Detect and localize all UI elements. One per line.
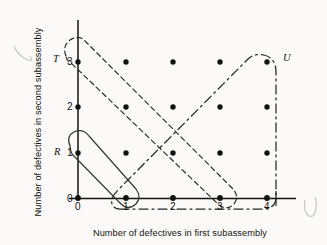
x-tick-4: 4 — [264, 201, 270, 212]
figure-background — [0, 0, 327, 245]
data-point — [170, 59, 175, 64]
data-point — [75, 59, 80, 64]
region-label-T: T — [53, 53, 59, 64]
y-tick-1: 1 — [67, 147, 73, 158]
data-point — [217, 59, 222, 64]
data-point — [264, 104, 269, 109]
x-tick-0: 0 — [75, 201, 81, 212]
y-tick-0: 0 — [67, 193, 73, 204]
region-label-R: R — [54, 146, 60, 157]
y-axis-title: Number of defectives in second subassemb… — [33, 22, 43, 222]
data-point — [75, 104, 80, 109]
data-point — [75, 150, 80, 155]
data-point — [123, 59, 128, 64]
x-tick-3: 3 — [217, 201, 223, 212]
data-point — [170, 150, 175, 155]
data-point — [217, 104, 222, 109]
y-tick-3: 3 — [67, 56, 73, 67]
region-label-U: U — [283, 52, 291, 63]
data-point — [217, 150, 222, 155]
data-point — [170, 104, 175, 109]
y-tick-2: 2 — [67, 101, 73, 112]
data-point — [123, 150, 128, 155]
x-tick-2: 2 — [170, 201, 176, 212]
data-point — [123, 104, 128, 109]
data-point — [264, 59, 269, 64]
x-axis-title: Number of defectives in first subassembl… — [60, 228, 300, 238]
data-point — [264, 150, 269, 155]
scatter-figure — [0, 0, 327, 245]
x-tick-1: 1 — [123, 201, 129, 212]
